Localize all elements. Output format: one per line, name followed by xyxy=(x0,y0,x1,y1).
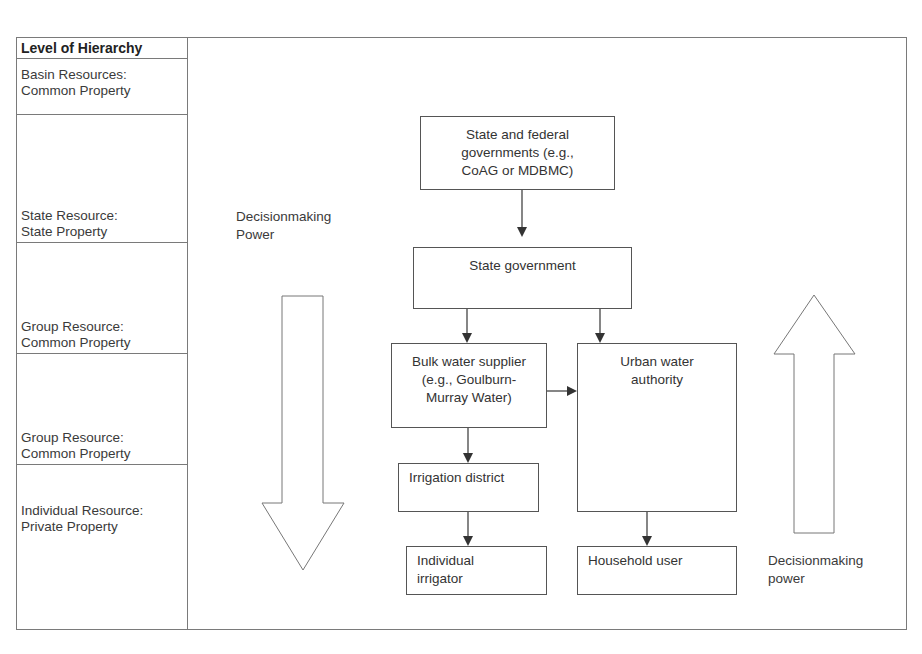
node-text: CoAG or MDBMC) xyxy=(421,162,614,180)
label-line: Decisionmaking xyxy=(236,208,331,226)
edge-bulk-to-irrigation xyxy=(463,427,473,463)
decision-power-up-label: Decisionmaking power xyxy=(768,552,863,588)
node-state-government: State government xyxy=(413,247,632,309)
edge-urban-to-household xyxy=(642,511,652,546)
edge-state-to-bulk xyxy=(462,308,472,343)
node-text: Urban water xyxy=(578,353,736,371)
decision-power-down-label: Decisionmaking Power xyxy=(236,208,331,244)
label-line: power xyxy=(768,570,863,588)
node-text: Bulk water supplier xyxy=(392,353,546,371)
node-text: State and federal xyxy=(421,126,614,144)
node-text: Household user xyxy=(588,552,736,570)
node-household-user: Household user xyxy=(577,546,737,595)
decision-power-down-arrow-icon xyxy=(262,296,344,570)
node-text: authority xyxy=(578,371,736,389)
node-text: Irrigation district xyxy=(409,469,538,487)
node-text: Murray Water) xyxy=(392,389,546,407)
node-individual-irrigator: Individual irrigator xyxy=(406,546,547,595)
edge-irrigation-to-irrigator xyxy=(463,511,473,546)
edge-state-to-urban xyxy=(595,308,605,343)
node-text: Individual xyxy=(417,552,546,570)
label-line: Decisionmaking xyxy=(768,552,863,570)
node-irrigation-district: Irrigation district xyxy=(398,463,539,512)
edge-bulk-to-urban xyxy=(546,386,577,396)
label-line: Power xyxy=(236,226,331,244)
node-text: irrigator xyxy=(417,570,546,588)
decision-power-up-arrow-icon xyxy=(774,295,855,533)
node-text: governments (e.g., xyxy=(421,144,614,162)
node-urban-water-authority: Urban water authority xyxy=(577,343,737,512)
node-bulk-water-supplier: Bulk water supplier (e.g., Goulburn- Mur… xyxy=(391,343,547,428)
node-text: State government xyxy=(414,257,631,275)
node-state-federal-governments: State and federal governments (e.g., CoA… xyxy=(420,116,615,190)
node-text: (e.g., Goulburn- xyxy=(392,371,546,389)
edge-federal-to-state xyxy=(517,189,527,237)
